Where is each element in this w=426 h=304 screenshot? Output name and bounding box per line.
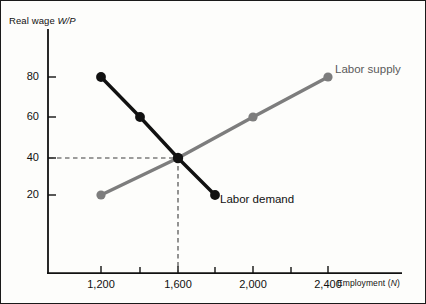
x-axis-ticks — [101, 266, 328, 273]
labor-demand-point-1200 — [96, 72, 106, 82]
equilibrium-guides — [49, 158, 178, 272]
x-axis-title-suffix: ) — [397, 278, 400, 288]
labor-market-chart: Real wage W/P Employment (N) 20 40 60 80… — [0, 0, 426, 304]
equilibrium-point-marker — [173, 153, 183, 163]
y-axis-title-prefix: Real wage — [9, 15, 58, 26]
y-axis-ticks — [48, 77, 56, 195]
y-axis-title-variable: W/P — [58, 15, 76, 26]
labor-demand-label: Labor demand — [220, 193, 294, 205]
x-tick-label-1200: 1,200 — [78, 278, 124, 290]
labor-demand-point-1800 — [210, 190, 220, 200]
chart-canvas — [1, 1, 426, 304]
labor-supply-line — [101, 77, 328, 195]
labor-supply-point-1200 — [96, 190, 105, 199]
y-axis-title: Real wage W/P — [9, 15, 76, 26]
labor-supply-series — [96, 72, 332, 199]
labor-supply-label: Labor supply — [335, 63, 401, 75]
labor-demand-series — [96, 72, 220, 200]
y-tick-label-80: 80 — [1, 70, 39, 82]
x-tick-label-2000: 2,000 — [230, 278, 276, 290]
labor-demand-line — [101, 77, 215, 195]
x-tick-label-1600: 1,600 — [155, 278, 201, 290]
x-tick-label-2400: 2,400 — [305, 278, 351, 290]
labor-demand-point-1400 — [135, 112, 145, 122]
y-tick-label-40: 40 — [1, 151, 39, 163]
labor-supply-point-2000 — [248, 112, 257, 121]
y-tick-label-20: 20 — [1, 188, 39, 200]
labor-supply-point-2400 — [323, 72, 332, 81]
y-tick-label-60: 60 — [1, 110, 39, 122]
